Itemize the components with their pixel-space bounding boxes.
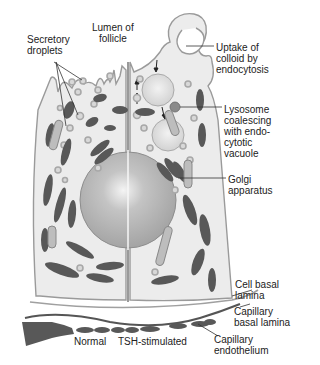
label-lysosome-coalescing: Lysosome coalescing with endo- cytotic v…	[224, 104, 271, 159]
label-secretory-droplets: Secretory droplets	[27, 34, 70, 56]
label-golgi-apparatus: Golgi apparatus	[228, 174, 272, 196]
label-lumen-of-follicle: Lumen of follicle	[92, 22, 134, 44]
label-cell-basal-lamina: Cell basal lamina	[235, 279, 279, 301]
label-uptake-of-colloid: Uptake of colloid by endocytosis	[216, 42, 269, 75]
label-capillary-endothelium: Capillary endothelium	[214, 334, 268, 356]
label-tsh-stimulated: TSH-stimulated	[118, 336, 187, 347]
colloid-vacuole	[142, 74, 174, 106]
label-normal: Normal	[74, 336, 106, 347]
label-capillary-basal-lamina: Capillary basal lamina	[234, 306, 290, 328]
lysosome	[170, 102, 180, 112]
